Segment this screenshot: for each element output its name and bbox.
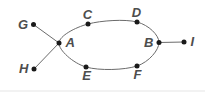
node-label-F: F <box>134 67 143 82</box>
node-dot-I <box>182 40 187 45</box>
node-dot-D <box>135 20 140 25</box>
edge-B-I <box>159 42 184 43</box>
node-label-A: A <box>65 35 75 50</box>
node-dot-B <box>157 40 162 45</box>
graph-svg: GHACDEFBI <box>0 0 205 92</box>
node-label-I: I <box>191 34 195 49</box>
node-label-C: C <box>83 7 93 22</box>
edge-H-A <box>34 43 59 69</box>
graph-diagram: GHACDEFBI <box>0 0 205 92</box>
node-dot-G <box>31 22 36 27</box>
node-dot-H <box>32 67 37 72</box>
node-dot-C <box>86 22 91 27</box>
node-label-H: H <box>19 61 29 76</box>
node-label-B: B <box>144 35 153 50</box>
node-label-G: G <box>18 17 28 32</box>
node-dot-A <box>57 41 62 46</box>
edge-G-A <box>34 25 60 44</box>
bottom-edge-divider <box>0 90 205 92</box>
node-label-D: D <box>132 5 142 20</box>
node-label-E: E <box>82 68 91 83</box>
